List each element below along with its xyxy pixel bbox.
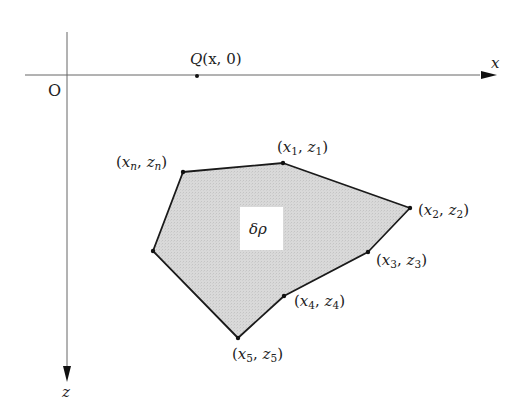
x-axis: x	[25, 54, 500, 79]
x-axis-label: x	[491, 54, 500, 72]
region-label: δρ	[249, 220, 267, 238]
point-q-label: Q(x, 0)	[190, 50, 242, 68]
vertex-5-label: (x5, z5)	[232, 345, 283, 364]
vertex-3-label: (x3, z3)	[376, 251, 427, 270]
polygon-gravity-diagram: x z O Q(x, 0) δρ (xn, zn) (x1, z1) (x2, …	[0, 0, 527, 417]
vertex-left-dot	[151, 249, 155, 253]
vertex-n-dot	[181, 170, 185, 174]
vertex-2-dot	[408, 206, 412, 210]
vertex-5-dot	[236, 336, 240, 340]
anomalous-body-polygon	[153, 163, 410, 338]
vertex-n-label: (xn, zn)	[116, 153, 167, 172]
z-axis-label: z	[61, 383, 70, 401]
vertex-3-dot	[366, 250, 370, 254]
vertex-1-dot	[281, 161, 285, 165]
vertex-4-dot	[282, 294, 286, 298]
vertex-1-label: (x1, z1)	[277, 138, 328, 157]
z-axis: z	[61, 32, 71, 401]
vertex-4-label: (x4, z4)	[294, 292, 345, 311]
point-q: Q(x, 0)	[190, 50, 242, 78]
vertex-2-label: (x2, z2)	[418, 201, 469, 220]
z-axis-arrow-icon	[63, 366, 71, 382]
x-axis-arrow-icon	[481, 71, 497, 79]
origin-label: O	[48, 81, 61, 100]
point-q-dot	[195, 74, 199, 78]
